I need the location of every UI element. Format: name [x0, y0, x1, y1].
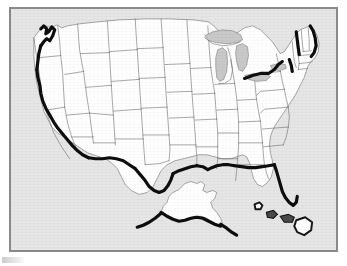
- us-map-svg: .land { fill:#ffffff; stroke:#6e6e6e; st…: [10, 8, 337, 251]
- map-frame: .land { fill:#ffffff; stroke:#6e6e6e; st…: [9, 7, 338, 252]
- hawaii-kauai: [255, 202, 263, 209]
- hawaii-big-island: [294, 217, 312, 235]
- map-page: .land { fill:#ffffff; stroke:#6e6e6e; st…: [0, 0, 347, 266]
- scan-edge-artifact: [2, 257, 24, 263]
